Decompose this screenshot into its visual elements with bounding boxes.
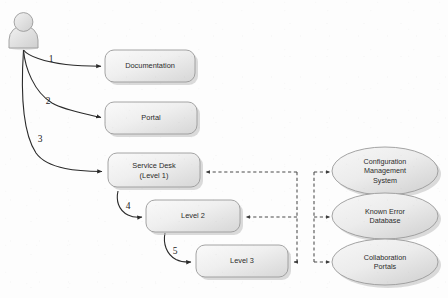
sequence-label-5: 5 bbox=[173, 246, 178, 256]
node-configuration-management-system[interactable]: Configuration Management System bbox=[332, 147, 441, 198]
node-service-desk-sublabel: (Level 1) bbox=[140, 171, 169, 180]
node-level-3[interactable]: Level 3 bbox=[196, 245, 291, 280]
flow-arrow-3 bbox=[22, 50, 102, 172]
flow-arrow-5 bbox=[164, 233, 191, 262]
node-portal[interactable]: Portal bbox=[105, 102, 200, 137]
node-service-desk[interactable]: Service Desk (Level 1) bbox=[108, 153, 203, 190]
node-service-desk-label: Service Desk bbox=[132, 161, 176, 170]
node-ked-label-line1: Known Error bbox=[365, 207, 406, 216]
flow-diagram: Documentation Portal Service Desk (Level… bbox=[0, 0, 448, 298]
node-cms-label-line2: Management bbox=[364, 166, 406, 175]
node-level-3-label: Level 3 bbox=[230, 256, 254, 265]
node-documentation[interactable]: Documentation bbox=[105, 50, 198, 85]
flow-arrow-1 bbox=[24, 50, 102, 66]
node-documentation-label: Documentation bbox=[125, 61, 175, 70]
node-collaboration-portals[interactable]: Collaboration Portals bbox=[332, 239, 441, 288]
node-collab-label-line1: Collaboration bbox=[364, 253, 406, 262]
node-portal-label: Portal bbox=[141, 113, 161, 122]
diagram-canvas: Documentation Portal Service Desk (Level… bbox=[0, 0, 448, 298]
node-known-error-database[interactable]: Known Error Database bbox=[332, 193, 441, 242]
sequence-label-4: 4 bbox=[126, 201, 131, 211]
flow-arrow-2 bbox=[24, 50, 102, 118]
node-cms-label-line1: Configuration bbox=[364, 157, 407, 166]
node-level-2[interactable]: Level 2 bbox=[146, 200, 243, 235]
node-level-2-label: Level 2 bbox=[181, 211, 205, 220]
node-ked-label-line2: Database bbox=[370, 216, 401, 225]
node-cms-label-line3: System bbox=[373, 176, 397, 185]
user-actor-icon bbox=[9, 13, 39, 51]
sequence-label-1: 1 bbox=[49, 54, 54, 64]
sequence-label-3: 3 bbox=[38, 134, 43, 144]
node-collab-label-line2: Portals bbox=[374, 262, 397, 271]
sequence-label-2: 2 bbox=[46, 96, 51, 106]
